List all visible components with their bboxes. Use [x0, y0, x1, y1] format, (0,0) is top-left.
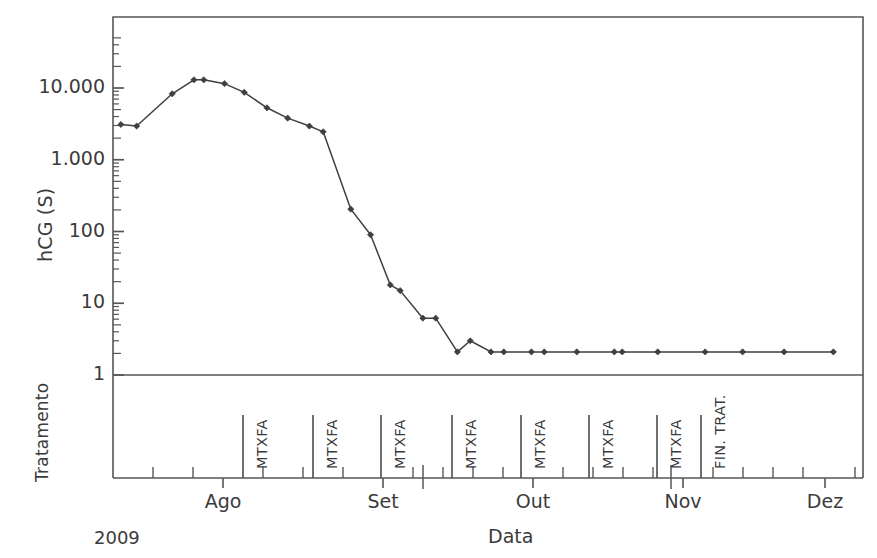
y-axis-title: hCG (S): [34, 188, 56, 262]
data-point-marker: [201, 77, 207, 83]
series-polyline: [121, 80, 834, 352]
y-tick-label: 1.000: [51, 147, 105, 169]
data-point-marker: [501, 349, 507, 355]
y-tick-label: 10.000: [39, 75, 105, 97]
data-point-marker: [781, 349, 787, 355]
treatment-label: MTXFA: [463, 419, 479, 469]
y-tick-label: 1: [93, 362, 105, 384]
data-point-marker: [306, 123, 312, 129]
x-axis-title: Data: [488, 525, 533, 547]
data-point-marker: [221, 81, 227, 87]
data-point-marker: [285, 115, 291, 121]
treatment-label: MTXFA: [668, 419, 684, 469]
hcg-series-markers: [118, 77, 837, 355]
treatment-label: MTXFA: [392, 419, 408, 469]
treatment-axis-title: Tratamento: [32, 383, 52, 482]
data-point-marker: [574, 349, 580, 355]
data-point-marker: [118, 121, 124, 127]
data-point-marker: [830, 349, 836, 355]
data-point-marker: [611, 349, 617, 355]
data-point-marker: [387, 282, 393, 288]
x-tick-label: Nov: [664, 490, 701, 512]
data-point-marker: [655, 349, 661, 355]
treatment-label: MTXFA: [254, 419, 270, 469]
treatment-label: MTXFA: [600, 419, 616, 469]
data-point-marker: [619, 349, 625, 355]
y-tick-label: 100: [69, 219, 105, 241]
hcg-series-line: [121, 80, 834, 352]
treatment-label: MTXFA: [532, 419, 548, 469]
chart-figure: hCG (S) Tratamento Data 2009 10.0001.000…: [0, 0, 877, 558]
x-tick-label: Dez: [807, 490, 843, 512]
hcg-log-line-chart: [0, 0, 877, 558]
x-tick-label: Out: [516, 490, 550, 512]
year-annotation: 2009: [94, 527, 140, 548]
data-point-marker: [541, 349, 547, 355]
data-point-marker: [702, 349, 708, 355]
x-tick-label: Ago: [205, 490, 242, 512]
y-axis-ticks: [113, 38, 124, 375]
data-point-marker: [320, 129, 326, 135]
treatment-label: MTXFA: [324, 419, 340, 469]
x-tick-label: Set: [367, 490, 398, 512]
data-point-marker: [528, 349, 534, 355]
y-tick-label: 10: [81, 290, 105, 312]
data-point-marker: [488, 349, 494, 355]
treatment-label: FIN. TRAT.: [712, 394, 728, 469]
data-point-marker: [740, 349, 746, 355]
